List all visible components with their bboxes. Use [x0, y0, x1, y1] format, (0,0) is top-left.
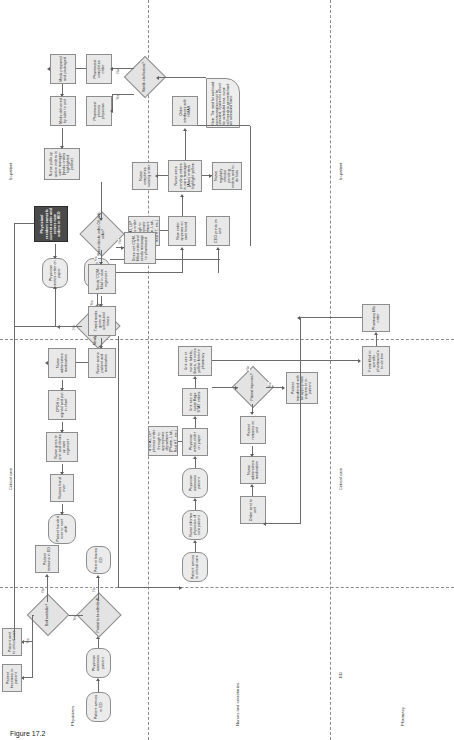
edge-paper-to-stat: [178, 441, 182, 442]
node-physician-assesses-2[interactable]: Physician assesses patient: [182, 468, 208, 498]
edge-clar-yes-v: [112, 94, 134, 95]
arrowhead-cpoe-prints: [216, 247, 220, 250]
node-nurse-administers-med[interactable]: Nurse administers medication: [48, 348, 76, 378]
lane-divider-physicians-nurses: [148, 0, 149, 740]
edge-order-sent-to-admin: [252, 486, 253, 496]
edge-label-improves-no: No: [246, 366, 250, 371]
node-patient-handed-over[interactable]: Patient handed over to next shift: [48, 514, 76, 544]
edge-heo-enters-down: [110, 272, 182, 273]
node-patient-transferred[interactable]: Patient transferred with all appropriate…: [286, 372, 318, 404]
node-nurse-goes-unit-clocks[interactable]: Nurse goes to unit and clocks up care or…: [46, 432, 78, 462]
arrowhead-unitsec-flags: [193, 416, 197, 419]
arrowhead-cpoe-signed: [60, 388, 64, 391]
node-patient-arrives-ed[interactable]: Patient arrives in ED: [86, 692, 111, 722]
edge-pharmacy-fills-up: [300, 317, 362, 318]
edge-note-to-clar: [158, 77, 206, 78]
edge-label-admit-no: No: [92, 587, 96, 592]
zone-divider-ed-critical: [0, 587, 454, 588]
node-nurse-sees-pending[interactable]: Nurse sees pending orders in care manage…: [168, 160, 202, 192]
node-meds-prepared-packaged[interactable]: Meds prepared and packaged: [50, 54, 76, 84]
arrowhead-nurse-scans: [99, 346, 103, 349]
edge-dark-top-h: [14, 224, 15, 640]
decision-to-be-admitted[interactable]: Patient to be admitted?: [76, 592, 121, 637]
node-physician-writes-paper-2[interactable]: Physician writes order on paper: [42, 258, 68, 288]
node-nurse-administers-med-2[interactable]: Nurse administers medication: [240, 456, 266, 484]
arrowhead-remains-unit: [250, 412, 254, 415]
lane-divider-nurses-pharmacy: [330, 0, 331, 740]
edge-completes-to-prepared: [76, 68, 86, 69]
arrowhead-nurse-admin-med: [45, 361, 48, 365]
edge-assess-to-admit: [98, 638, 99, 648]
arrowhead-assess: [96, 678, 100, 681]
arrowhead-pharmacist-completes: [110, 67, 113, 71]
arrowhead-remains-ed: [45, 574, 49, 577]
node-cpoe-signed-chart[interactable]: CPOH is signed and put in chart: [48, 390, 76, 420]
node-sends-cpoe-order[interactable]: Sends 'CQM-filial' in care organizer: [88, 264, 116, 294]
arrowhead-dark-left: [53, 256, 57, 259]
arrowhead-nurse-informs: [193, 540, 197, 543]
node-pharmacist-completes[interactable]: Pharmacist completes order: [86, 54, 112, 84]
zone-label-inpatient-2: In-patient: [338, 163, 343, 180]
arrowhead-form-filed: [358, 359, 361, 363]
edge-labels-to-pharmacy: [212, 360, 360, 361]
edge-board-to-pending: [182, 196, 183, 216]
node-order-interfaces-hmar[interactable]: Order interfaces with HMAR: [172, 96, 198, 126]
zone-label-critical-2: Critical care: [338, 468, 343, 490]
node-patient-leaves-ed[interactable]: Patient leaves ED: [86, 546, 111, 574]
edge-pending-to-completes: [158, 175, 168, 176]
node-patient-remains-unit[interactable]: Patient remains on unit: [240, 416, 266, 444]
arrowhead-pharmacy-fills: [374, 332, 378, 335]
edge-pending-to-hmar: [185, 130, 186, 160]
node-patient-sent-critical[interactable]: Patient sent to critical care: [2, 628, 22, 656]
node-nurse-scans-patient[interactable]: Nurse scans patient and medication: [88, 348, 116, 378]
node-patient-remains-ed[interactable]: Patient remains in ED: [35, 545, 59, 573]
zone-label-inpatient: In-patient: [8, 163, 13, 180]
node-patient-arrives-critical[interactable]: Patient arrives in critical care: [182, 552, 208, 582]
node-physician-assesses[interactable]: Physician assesses patient: [86, 648, 111, 678]
edge-scans-to-admin: [76, 362, 88, 363]
edge-paper-to-unitsec: [195, 418, 196, 428]
arrowhead-nurse-goes-unit: [60, 430, 64, 433]
node-timed-meds-scheduled[interactable]: Timed meds given at scheduled times: [88, 306, 116, 336]
node-form-filed[interactable]: Form filed to specific pharmacist's to-d…: [362, 346, 390, 376]
node-physician-cancels-dark[interactable]: Physician/ resident cancels current orde…: [34, 206, 68, 242]
node-pharmacy-fills-order[interactable]: Pharmacy fills order: [362, 304, 390, 332]
arrowhead-nurse-sees-pending: [180, 194, 184, 197]
arrowhead-nurses-hand-over: [60, 472, 64, 475]
edge-heo-no-to-paper2: [55, 288, 56, 327]
rail-mid-long: [118, 336, 119, 588]
edge-board-to-stat2: [160, 230, 168, 231]
arrowhead-nurse-checks: [209, 174, 212, 178]
arrowhead-leaves-ed: [96, 575, 100, 578]
edge-pulls-to-checks: [101, 182, 102, 220]
node-cpoe-prints-unit[interactable]: CEO prints on unit: [206, 216, 230, 246]
arrowhead-admin-med-2: [250, 454, 254, 457]
node-does-not-cpoe-filled[interactable]: Does not CQM-filled order and sends mess…: [124, 232, 156, 264]
arrowhead-needs-clarification: [156, 76, 159, 80]
node-pharmacist-phones[interactable]: Pharmacist phones physician: [86, 96, 112, 126]
node-patient-becomes-inpatient[interactable]: Patient becomes in-patient: [2, 664, 22, 692]
arrowhead-paper2: [53, 286, 57, 289]
node-nurse-regularly-checks[interactable]: Nurse regularly checks pending orders an…: [212, 162, 242, 190]
node-note-box: Note: The need for continued communicati…: [206, 78, 240, 128]
edge-label-bed-no: No: [41, 588, 45, 593]
node-nurse-pulls-up-active[interactable]: Nurse pulls up active orders in care man…: [44, 148, 80, 180]
node-nurses-hand-over[interactable]: Nurses hand over: [50, 474, 74, 502]
decision-needs-clarification-label: Needs clarification?: [143, 56, 147, 98]
rail-pharmacy-long: [300, 318, 301, 524]
decision-patient-improves-label: Patient improves?: [251, 366, 255, 408]
arrowhead-rail-mid: [179, 586, 182, 590]
node-order-sent-unit[interactable]: Order sent to unit: [240, 496, 266, 524]
node-physician-writes-paper[interactable]: Physician writes order on paper: [182, 428, 208, 456]
node-unit-sec-flags-stat[interactable]: Unit sec or nurse flags STAT orders: [182, 388, 208, 416]
node-nurse-informs-physician[interactable]: Nurse informs physician of new patient: [182, 510, 208, 540]
node-new-order-care-board[interactable]: New order appears on care board: [168, 216, 196, 246]
edge-label-checks-yes: Yes: [94, 256, 98, 262]
arrowhead-unitsec-labels: [193, 376, 197, 379]
rail-mid-left: [118, 587, 182, 588]
edge-dark-up: [14, 223, 34, 224]
arrowhead-assess2: [193, 498, 197, 501]
node-stat-lip-phones[interactable]: If STAT, LIP phones order through to app…: [148, 426, 178, 456]
node-unit-sec-labels-faxes[interactable]: Unit sec or nurse labels, faxes, or note…: [178, 346, 212, 376]
node-meds-delivered-tube[interactable]: Meds delivered by tube to unit: [50, 96, 76, 126]
